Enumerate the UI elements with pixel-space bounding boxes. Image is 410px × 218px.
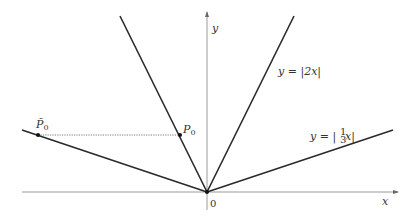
line-third-right xyxy=(207,130,393,192)
origin-label: 0 xyxy=(210,198,216,209)
label-p0: P0 xyxy=(182,123,196,137)
diagram-canvas: y x 0 y = |2x| y = | 1 3 x| P0 P̃0 xyxy=(0,0,410,218)
line-third-left xyxy=(22,130,207,192)
point-p0-tilde xyxy=(36,133,40,137)
svg-text:x|: x| xyxy=(345,130,355,144)
svg-text:y = |: y = | xyxy=(309,130,336,144)
label-p0-tilde: P̃0 xyxy=(35,118,49,132)
curve-label-2x: y = |2x| xyxy=(277,65,321,79)
x-axis-label: x xyxy=(382,195,389,208)
point-p0 xyxy=(178,133,182,137)
line-2x-right xyxy=(207,16,294,192)
line-2x-left xyxy=(120,16,207,192)
y-axis-label: y xyxy=(211,22,219,35)
curve-label-third: y = | 1 3 x| xyxy=(309,126,355,145)
origin-point xyxy=(205,190,209,194)
